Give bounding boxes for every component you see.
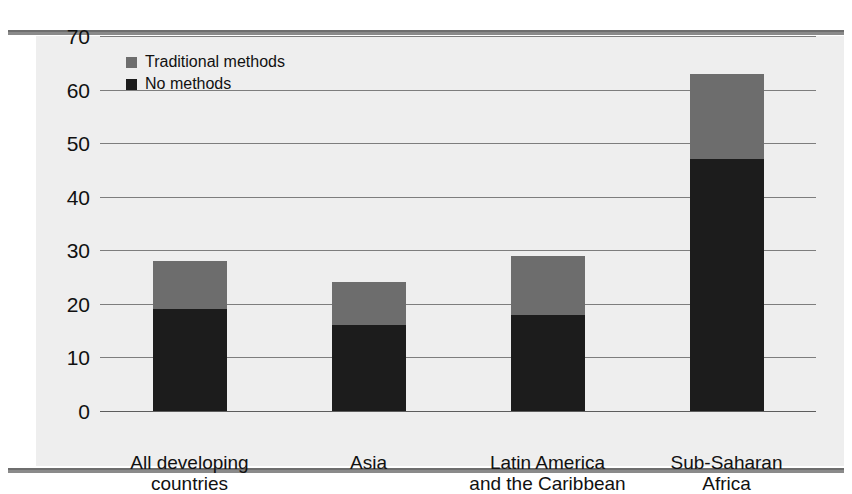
y-axis-tick-label: 40 [67,186,90,207]
bar-segment-traditional-methods [511,256,585,315]
top-rule [8,30,844,35]
y-axis-tick-label: 20 [67,293,90,314]
legend-swatch-traditional-icon [126,57,137,68]
x-axis-category-label-line: and the Caribbean [458,473,637,494]
bar-segment-traditional-methods [153,261,227,309]
bar-segment-traditional-methods [332,282,406,325]
legend-swatch-no-methods-icon [126,79,137,90]
x-axis-category-label: All developingcountries [100,452,279,494]
x-axis-category-label-line: Asia [279,452,458,473]
x-axis-category-label: Sub-SaharanAfrica [637,452,816,494]
y-axis-tick-label: 60 [67,79,90,100]
bar-segment-no-methods [153,309,227,411]
gridline-0: 0 [100,411,816,412]
legend-label-traditional: Traditional methods [145,53,285,71]
bar-group [511,256,585,411]
chart-legend: Traditional methods No methods [126,52,285,96]
bar-segment-no-methods [511,315,585,411]
x-axis-category-label-line: All developing [100,452,279,473]
y-axis-tick-label: 70 [67,26,90,47]
bar-segment-traditional-methods [690,74,764,160]
legend-item-no-methods: No methods [126,74,285,94]
x-axis-category-label-line: Sub-Saharan [637,452,816,473]
x-axis-category-label-line: countries [100,473,279,494]
y-axis-tick-label: 0 [78,401,90,422]
bar-group [332,282,406,411]
y-axis-tick-label: 50 [67,133,90,154]
x-axis-category-label-line: Latin America [458,452,637,473]
x-axis-category-label-line: Africa [637,473,816,494]
bar-segment-no-methods [332,325,406,411]
x-axis-category-label: Asia [279,452,458,473]
legend-label-no-methods: No methods [145,75,231,93]
y-axis-tick-label: 30 [67,240,90,261]
bar-segment-no-methods [690,159,764,411]
x-axis-category-label: Latin Americaand the Caribbean [458,452,637,494]
bar-group [690,74,764,412]
bar-group [153,261,227,411]
legend-item-traditional: Traditional methods [126,52,285,72]
y-axis-tick-label: 10 [67,347,90,368]
